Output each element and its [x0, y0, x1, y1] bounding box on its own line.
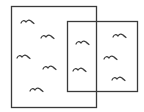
bird-icon — [76, 41, 89, 44]
diagram-canvas — [0, 0, 144, 112]
bird-icon — [41, 35, 54, 38]
bird-icon — [43, 66, 56, 69]
venn-diagram — [0, 0, 144, 112]
bird-icon — [73, 68, 86, 71]
right-set-rectangle — [68, 22, 138, 92]
birds-group — [17, 20, 126, 91]
bird-icon — [21, 20, 34, 23]
bird-icon — [17, 55, 30, 58]
bird-icon — [30, 88, 43, 91]
bird-icon — [104, 56, 117, 59]
bird-icon — [113, 34, 126, 37]
rectangles-group — [12, 7, 138, 108]
bird-icon — [112, 77, 125, 80]
